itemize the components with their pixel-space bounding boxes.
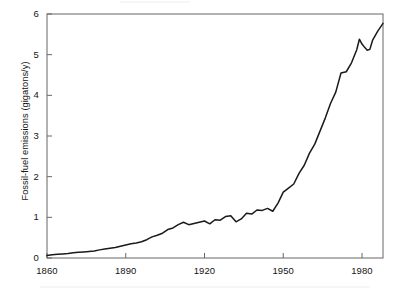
y-tick-label: 0: [25, 252, 39, 263]
y-tick-label: 6: [25, 8, 39, 19]
axes-border: [47, 14, 383, 258]
fossil-fuel-emissions-line-chart: [0, 0, 403, 292]
x-tick-label: 1950: [263, 265, 303, 276]
x-tick-label: 1920: [185, 265, 225, 276]
plot-frame: [47, 14, 383, 258]
y-axis-tick-marks: [47, 14, 52, 258]
scan-artifact: [40, 286, 370, 288]
emissions-data-line: [47, 23, 383, 255]
chart-figure: 0123456 18601890192019501980 Fossil-fuel…: [0, 0, 403, 292]
x-tick-label: 1860: [27, 265, 67, 276]
y-axis-title: Fossil-fuel emissions (gigatons/y): [20, 36, 30, 226]
x-tick-label: 1890: [106, 265, 146, 276]
scan-artifact: [120, 1, 190, 3]
x-tick-label: 1980: [342, 265, 382, 276]
x-axis-tick-marks: [47, 253, 362, 258]
